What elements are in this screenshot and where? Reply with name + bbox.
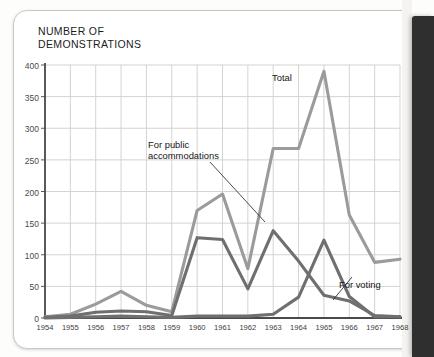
scanned-page: NUMBER OF DEMONSTRATIONS 050100150200250… bbox=[0, 0, 434, 357]
x-tick-label: 1964 bbox=[286, 323, 312, 332]
x-tick-label: 1968 bbox=[387, 323, 413, 332]
x-tick-label: 1963 bbox=[260, 323, 286, 332]
chart-title: NUMBER OF DEMONSTRATIONS bbox=[38, 25, 141, 50]
x-tick-label: 1961 bbox=[210, 323, 236, 332]
y-tick-label: 0 bbox=[5, 314, 39, 324]
figure-card: NUMBER OF DEMONSTRATIONS bbox=[13, 10, 407, 349]
x-tick-label: 1957 bbox=[108, 323, 134, 332]
y-tick-label: 300 bbox=[5, 124, 39, 134]
x-tick-label: 1959 bbox=[159, 323, 185, 332]
x-tick-label: 1967 bbox=[362, 323, 388, 332]
x-tick-label: 1966 bbox=[336, 323, 362, 332]
y-tick-label: 200 bbox=[5, 187, 39, 197]
x-tick-label: 1962 bbox=[235, 323, 261, 332]
x-tick-label: 1958 bbox=[133, 323, 159, 332]
x-tick-label: 1960 bbox=[184, 323, 210, 332]
x-tick-label: 1965 bbox=[311, 323, 337, 332]
page-gutter bbox=[402, 0, 412, 357]
x-tick-label: 1956 bbox=[83, 323, 109, 332]
y-tick-label: 350 bbox=[5, 92, 39, 102]
y-tick-label: 100 bbox=[5, 250, 39, 260]
x-tick-label: 1954 bbox=[32, 323, 58, 332]
series-label-total: Total bbox=[272, 72, 292, 83]
plot-area bbox=[59, 76, 407, 329]
y-tick-label: 50 bbox=[5, 282, 39, 292]
binding-bar bbox=[412, 16, 434, 357]
x-tick-label: 1955 bbox=[57, 323, 83, 332]
series-label-public-accommodations: For public accommodations bbox=[148, 139, 219, 162]
series-label-voting: For voting bbox=[339, 279, 381, 290]
y-tick-label: 400 bbox=[5, 61, 39, 71]
y-tick-label: 150 bbox=[5, 219, 39, 229]
y-tick-label: 250 bbox=[5, 155, 39, 165]
